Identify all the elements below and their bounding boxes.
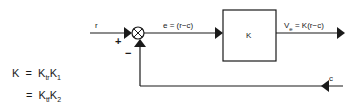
feedback-arrow-icon xyxy=(321,80,329,92)
eq2-term1: K xyxy=(39,89,46,101)
output-arrow-icon xyxy=(337,27,345,39)
eq2-equals: = xyxy=(26,89,32,101)
error-label: e = (r−c) xyxy=(163,22,193,30)
minus-sign: − xyxy=(125,48,131,59)
summing-junction-icon xyxy=(132,27,144,39)
eq1-equals: = xyxy=(25,67,31,79)
input-arrow-icon xyxy=(124,27,132,39)
feedback-up-arrow-icon xyxy=(134,39,146,47)
error-arrow-icon xyxy=(215,27,223,39)
eq2-term2-sub: 2 xyxy=(57,96,61,103)
output-label-rest: = K(r−c) xyxy=(293,21,324,30)
eq1-lhs: K xyxy=(12,67,19,79)
block-label: K xyxy=(246,31,251,40)
input-label: r xyxy=(95,22,98,30)
equation-line-2: = KtfK2 xyxy=(26,90,61,103)
eq1-term2: K xyxy=(50,67,57,79)
eq1-term2-sub: 1 xyxy=(57,74,61,81)
plus-sign: + xyxy=(115,36,121,47)
feedback-label: c xyxy=(329,75,333,83)
equation-line-1: K = KtrK1 xyxy=(12,68,61,81)
output-label: Ve = K(r−c) xyxy=(284,22,324,32)
